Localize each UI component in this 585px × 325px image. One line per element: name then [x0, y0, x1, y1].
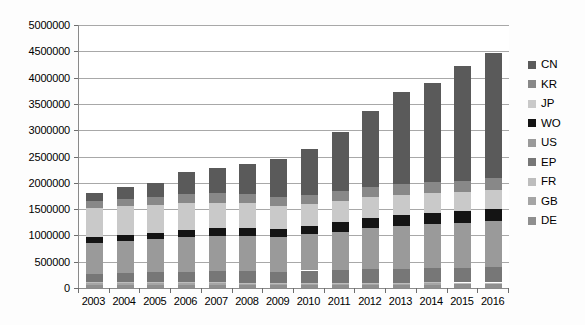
bar-segment-FR	[424, 282, 441, 283]
bar-segment-JP	[424, 193, 441, 212]
bar-segment-CN	[424, 83, 441, 182]
y-axis: 5000000450000040000003500000300000025000…	[0, 25, 70, 288]
legend-item-JP[interactable]: JP	[528, 94, 583, 114]
x-tick-label-2015: 2015	[450, 295, 473, 307]
legend-swatch-icon	[528, 119, 536, 127]
bar-segment-WO	[117, 235, 134, 241]
bar-segment-GB	[147, 283, 164, 284]
bar-segment-CN	[239, 164, 256, 194]
legend-item-CN[interactable]: CN	[528, 55, 583, 75]
bar-segment-WO	[270, 229, 287, 237]
x-tick-mark	[170, 288, 171, 293]
bar-segment-EP	[332, 270, 349, 283]
bar-segment-FR	[332, 283, 349, 284]
legend-item-DE[interactable]: DE	[528, 211, 583, 231]
bar-segment-GB	[209, 283, 226, 284]
legend-item-label: CN	[541, 59, 558, 71]
bar-segment-WO	[424, 213, 441, 224]
bar-segment-EP	[209, 271, 226, 282]
x-tick-mark	[293, 288, 294, 293]
x-tick-mark	[416, 288, 417, 293]
bar-segment-WO	[485, 209, 502, 221]
bar-segment-FR	[239, 283, 256, 284]
bar-2009	[270, 159, 287, 288]
bar-segment-FR	[393, 283, 410, 284]
x-tick-mark	[324, 288, 325, 293]
bar-segment-JP	[332, 201, 349, 222]
bar-segment-CN	[209, 168, 226, 193]
legend-swatch-icon	[528, 80, 536, 88]
gridline	[79, 130, 509, 131]
x-tick-label-2013: 2013	[389, 295, 412, 307]
bar-segment-JP	[86, 208, 103, 237]
bar-segment-US	[239, 236, 256, 271]
gridline	[79, 209, 509, 210]
bar-segment-EP	[178, 272, 195, 283]
bar-segment-FR	[454, 283, 471, 284]
x-tick-mark	[447, 288, 448, 293]
bar-segment-GB	[178, 283, 195, 284]
bar-segment-KR	[117, 199, 134, 207]
legend-swatch-icon	[528, 100, 536, 108]
bar-segment-CN	[270, 159, 287, 197]
bar-2005	[147, 183, 164, 288]
bar-segment-FR	[147, 282, 164, 283]
stacked-bar-chart: 5000000450000040000003500000300000025000…	[0, 0, 585, 325]
bar-segment-CN	[485, 53, 502, 179]
x-axis: 2003200420052006200720082009201020112012…	[78, 288, 509, 318]
legend-item-US[interactable]: US	[528, 133, 583, 153]
x-tick-label-2016: 2016	[481, 295, 504, 307]
x-tick-mark	[385, 288, 386, 293]
bar-segment-GB	[485, 283, 502, 284]
bar-2011	[332, 132, 349, 288]
bar-segment-GB	[454, 283, 471, 284]
bar-segment-FR	[178, 282, 195, 283]
bar-segment-EP	[424, 268, 441, 282]
bar-segment-WO	[301, 226, 318, 234]
gridline	[79, 262, 509, 263]
legend-item-KR[interactable]: KR	[528, 75, 583, 95]
legend-item-WO[interactable]: WO	[528, 114, 583, 134]
bar-segment-KR	[362, 187, 379, 198]
bar-segment-WO	[178, 230, 195, 237]
legend-item-FR[interactable]: FR	[528, 172, 583, 192]
legend-item-GB[interactable]: GB	[528, 192, 583, 212]
bar-segment-KR	[332, 191, 349, 201]
legend-item-label: WO	[541, 118, 561, 130]
x-tick-label-2012: 2012	[358, 295, 381, 307]
legend-item-EP[interactable]: EP	[528, 153, 583, 173]
x-tick-mark	[508, 288, 509, 293]
bar-segment-US	[178, 237, 195, 271]
legend-swatch-icon	[528, 61, 536, 69]
x-tick-label-2008: 2008	[235, 295, 258, 307]
legend-item-label: DE	[541, 215, 557, 227]
bar-segment-JP	[270, 206, 287, 229]
bar-segment-EP	[454, 268, 471, 283]
bar-segment-KR	[454, 181, 471, 193]
bar-segment-CN	[332, 132, 349, 191]
x-tick-label-2005: 2005	[143, 295, 166, 307]
bar-segment-FR	[209, 282, 226, 283]
bar-segment-US	[362, 228, 379, 269]
bar-segment-EP	[239, 271, 256, 282]
gridline	[79, 51, 509, 52]
gridline	[79, 25, 509, 26]
gridline	[79, 183, 509, 184]
bar-segment-EP	[362, 269, 379, 283]
bar-segment-KR	[424, 182, 441, 194]
bar-segment-US	[86, 243, 103, 274]
bar-segment-CN	[393, 92, 410, 184]
bar-segment-KR	[393, 184, 410, 195]
bar-segment-KR	[485, 178, 502, 190]
bar-segment-US	[270, 237, 287, 272]
legend-swatch-icon	[528, 178, 536, 186]
x-tick-mark	[477, 288, 478, 293]
y-tick-label: 2000000	[0, 177, 70, 189]
y-tick-label: 4500000	[0, 45, 70, 57]
x-tick-label-2007: 2007	[205, 295, 228, 307]
bar-segment-JP	[178, 203, 195, 230]
x-tick-label-2009: 2009	[266, 295, 289, 307]
bar-segment-KR	[147, 197, 164, 206]
gridline	[79, 104, 509, 105]
bar-segment-FR	[485, 283, 502, 284]
